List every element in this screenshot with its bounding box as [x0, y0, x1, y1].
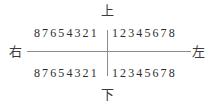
quadrant-upper-left-teeth: 12345678 [112, 27, 177, 39]
label-left-side: 左 [192, 45, 205, 58]
quadrant-lower-left-teeth: 12345678 [112, 67, 177, 79]
quadrant-lower-right-teeth: 87654321 [34, 67, 99, 79]
label-right-side: 右 [9, 45, 22, 58]
horizontal-divider [27, 51, 191, 52]
label-lower: 下 [101, 88, 114, 101]
label-upper: 上 [101, 4, 114, 17]
quadrant-upper-right-teeth: 87654321 [34, 27, 99, 39]
vertical-divider [107, 30, 108, 76]
